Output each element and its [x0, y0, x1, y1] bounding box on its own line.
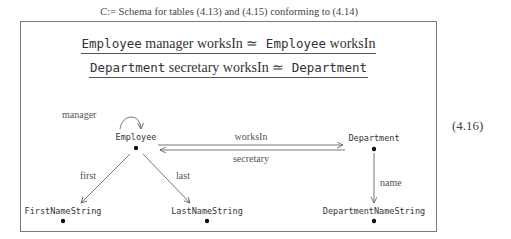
node-dot-firstnamestring — [61, 219, 65, 223]
node-label-departmentnamestring: DepartmentNameString — [323, 206, 425, 216]
schema-graph: manager worksIn secretary first last nam… — [0, 0, 511, 239]
edge-label-manager: manager — [62, 109, 97, 120]
edge-label-name: name — [380, 177, 402, 188]
node-dot-lastnamestring — [205, 219, 209, 223]
node-label-lastnamestring: LastNameString — [171, 206, 243, 216]
node-departmentnamestring: DepartmentNameString — [323, 206, 425, 223]
node-dot-department — [372, 147, 376, 151]
edge-manager: manager — [62, 109, 141, 129]
node-label-employee: Employee — [116, 132, 157, 142]
edge-label-last: last — [176, 170, 190, 181]
edge-label-secretary: secretary — [233, 153, 269, 164]
edge-first: first — [80, 154, 130, 203]
node-lastnamestring: LastNameString — [171, 206, 243, 223]
node-firstnamestring: FirstNameString — [25, 206, 102, 223]
node-dot-departmentnamestring — [372, 219, 376, 223]
node-label-firstnamestring: FirstNameString — [25, 206, 102, 216]
edge-worksIn: worksIn — [158, 131, 343, 145]
edge-name: name — [374, 153, 402, 203]
node-label-department: Department — [348, 133, 399, 143]
node-dot-employee — [134, 146, 138, 150]
node-employee: Employee — [116, 132, 157, 150]
edge-last: last — [143, 154, 190, 203]
edge-label-worksIn: worksIn — [235, 131, 268, 142]
edge-label-first: first — [80, 170, 96, 181]
node-department: Department — [348, 133, 399, 151]
edge-secretary: secretary — [160, 150, 345, 164]
